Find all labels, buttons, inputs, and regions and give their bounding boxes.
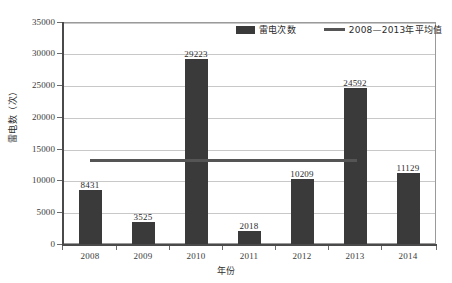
- x-tick-label-2014: 2014: [378, 251, 438, 261]
- bar-label-2009: 3525: [113, 212, 173, 222]
- legend-label-average: 2008—2013年平均值: [349, 23, 442, 36]
- average-line-2008-2013: [90, 159, 357, 162]
- legend-bar-swatch-icon: [236, 26, 255, 34]
- legend-item-average: 2008—2013年平均值: [324, 23, 442, 36]
- bar-2010: [185, 59, 208, 244]
- x-tick-mark-2: [169, 246, 170, 250]
- plot-area: [62, 22, 436, 244]
- y-tick-label-5000: 5000: [3, 208, 55, 217]
- y-tick-mark-20000: [57, 117, 62, 118]
- x-tick-label-2012: 2012: [272, 251, 332, 261]
- x-tick-mark-0: [62, 246, 63, 250]
- bar-2014: [397, 173, 420, 244]
- bar-label-2014: 11129: [378, 163, 438, 173]
- lightning-count-bar-chart: 35000 30000 25000 20000 15000 10000 5000…: [0, 0, 452, 283]
- x-tick-mark-5: [328, 246, 329, 250]
- bar-label-2010: 29223: [166, 49, 226, 59]
- x-tick-mark-4: [275, 246, 276, 250]
- x-axis-title: 年份: [0, 264, 452, 277]
- bar-label-2013: 24592: [325, 78, 385, 88]
- bar-label-2012: 10209: [272, 169, 332, 179]
- y-tick-mark-30000: [57, 53, 62, 54]
- x-tick-label-2013: 2013: [325, 251, 385, 261]
- bar-2013: [344, 88, 367, 244]
- x-tick-label-2010: 2010: [166, 251, 226, 261]
- legend-line-swatch-icon: [324, 28, 345, 31]
- y-tick-mark-15000: [57, 149, 62, 150]
- legend-label-lightning-count: 雷电次数: [259, 23, 296, 36]
- y-axis-title: 雷电数（次）: [6, 75, 19, 155]
- x-tick-mark-6: [381, 246, 382, 250]
- x-tick-mark-3: [222, 246, 223, 250]
- bar-2012: [291, 179, 314, 244]
- gridline-15000: [63, 150, 435, 151]
- legend-item-lightning-count: 雷电次数: [236, 23, 296, 36]
- y-tick-label-35000: 35000: [3, 18, 55, 27]
- x-tick-mark-1: [116, 246, 117, 250]
- y-tick-label-30000: 30000: [3, 49, 55, 58]
- x-tick-label-2008: 2008: [60, 251, 120, 261]
- x-tick-mark-7: [436, 246, 437, 250]
- bar-2011: [238, 231, 261, 244]
- bar-2009: [132, 222, 155, 244]
- bar-2008: [79, 190, 102, 244]
- y-tick-label-10000: 10000: [3, 176, 55, 185]
- bar-label-2011: 2018: [219, 221, 279, 231]
- y-axis-line: [62, 22, 64, 245]
- x-tick-label-2011: 2011: [219, 251, 279, 261]
- y-tick-label-0: 0: [3, 240, 55, 249]
- y-tick-mark-35000: [57, 22, 62, 23]
- x-tick-label-2009: 2009: [113, 251, 173, 261]
- y-tick-mark-5000: [57, 212, 62, 213]
- gridline-20000: [63, 118, 435, 119]
- gridline-30000: [63, 54, 435, 55]
- y-tick-mark-25000: [57, 85, 62, 86]
- chart-legend: 雷电次数 2008—2013年平均值: [236, 23, 442, 36]
- bar-label-2008: 8431: [60, 180, 120, 190]
